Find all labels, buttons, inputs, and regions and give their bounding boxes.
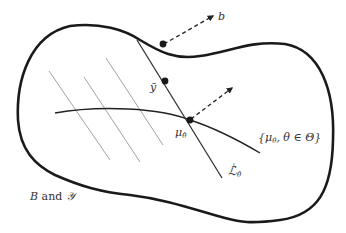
family-brace-open: { <box>258 131 265 144</box>
point-b <box>160 41 167 48</box>
space-Y: 𝒴 <box>66 190 75 203</box>
label-space: B and 𝒴 <box>30 191 75 202</box>
b-dashed-arrow <box>164 16 213 44</box>
label-y-bar: ȳ <box>150 82 156 93</box>
perp-symbol: ⊥ <box>231 162 237 168</box>
point-mu-theta-hat <box>187 117 194 124</box>
parallel-line-1 <box>49 71 110 160</box>
parallel-line-3 <box>106 58 163 145</box>
label-model-family: {μθ, θ ∈ Θ} <box>258 132 321 145</box>
mu-dashed-arrow <box>191 88 232 119</box>
label-L-perp: ⊥ ℒθ̂ <box>228 165 241 179</box>
model-manifold-curve <box>55 109 260 153</box>
orthogonal-line <box>137 40 222 178</box>
space-B: B <box>30 190 38 203</box>
label-b: b <box>218 11 225 22</box>
label-mu-theta-hat: μθ̂ <box>175 127 186 140</box>
mu-subscript: θ̂ <box>182 132 186 140</box>
point-y-bar <box>162 78 169 85</box>
family-rest: , θ ∈ Θ} <box>276 131 321 144</box>
space-and: and <box>38 190 66 203</box>
L-subscript: θ̂ <box>237 171 241 179</box>
parallel-line-2 <box>84 77 140 162</box>
